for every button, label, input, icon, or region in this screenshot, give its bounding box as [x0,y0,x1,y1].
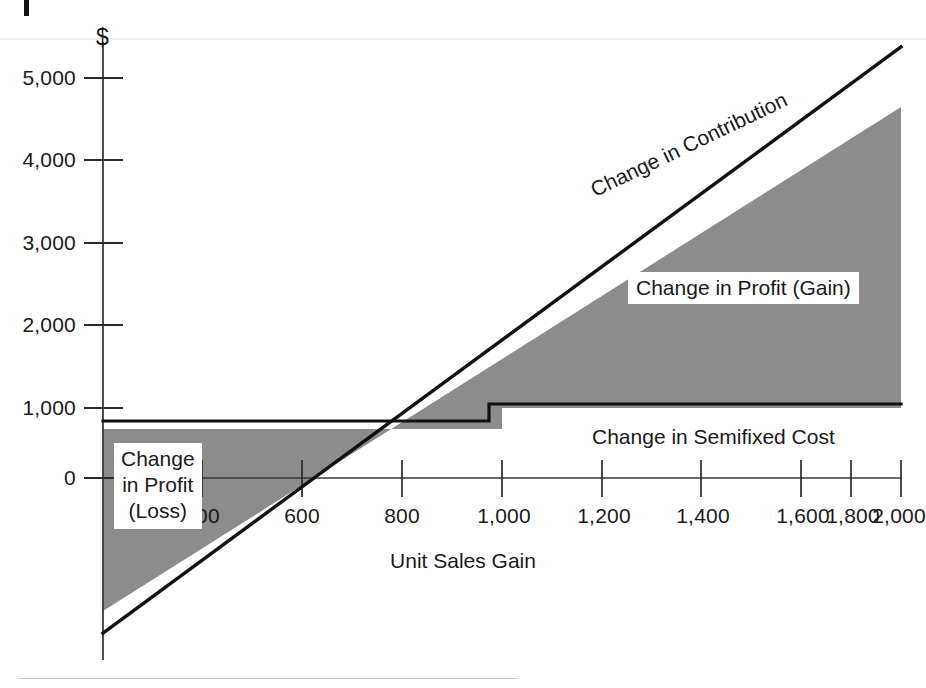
shaded-profit-regions [103,107,901,611]
annotation-change-in-semifixed-cost: Change in Semifixed Cost [592,424,835,450]
y-tick-label-5000: 5,000 [0,66,76,90]
y-tick-label-3000: 3,000 [0,231,76,255]
x-axis-title: Unit Sales Gain [390,549,536,573]
x-tick-label-2000: 2,000 [872,504,926,528]
annotation-loss-line-1: Change [121,446,195,472]
annotation-loss-line-2: in Profit [121,472,195,498]
y-axis-currency-symbol: $ [96,24,109,51]
y-tick-label-1000: 1,000 [0,396,76,420]
annotation-loss-line-3: (Loss) [121,498,195,524]
x-tick-label-1200: 1,200 [577,504,631,528]
y-tick-label-4000: 4,000 [0,148,76,172]
chart-figure: $ 5,000 4,000 3,000 2,000 1,000 0 400 60… [0,0,926,688]
x-tick-label-1000: 1,000 [477,504,531,528]
y-tick-label-0: 0 [0,466,76,490]
x-tick-label-600: 600 [284,504,320,528]
x-tick-label-800: 800 [384,504,420,528]
annotation-change-in-profit-loss: Change in Profit (Loss) [114,443,202,529]
x-tick-label-1400: 1,400 [676,504,730,528]
x-tick-label-1600: 1,600 [776,504,830,528]
page-bottom-rule [18,678,518,679]
y-tick-label-2000: 2,000 [0,313,76,337]
annotation-change-in-profit-gain: Change in Profit (Gain) [628,272,859,304]
